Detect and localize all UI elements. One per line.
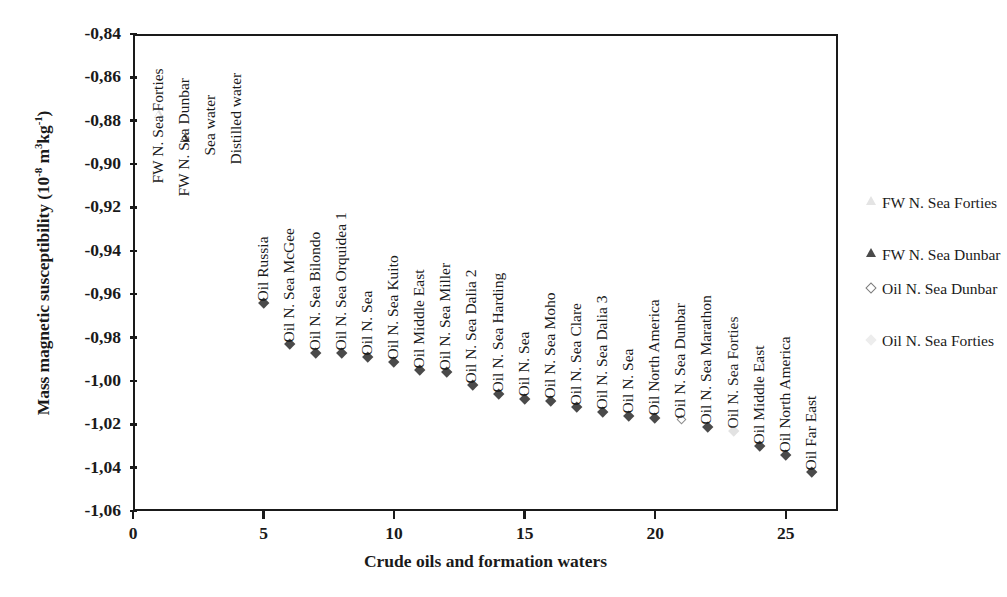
x-axis-tick-label: 0 <box>113 523 153 544</box>
data-point-label: Oil N. Sea Dalia 2 <box>463 269 479 383</box>
y-axis-tick-label: -0,92 <box>53 198 121 216</box>
data-point-label: Oil Far East <box>802 395 818 470</box>
data-point-label: Oil Russia <box>254 236 270 301</box>
x-axis-tick-label: 15 <box>505 523 545 544</box>
data-point-label: Oil N. Sea Harding <box>489 272 505 392</box>
legend-item[interactable]: FW N. Sea Dunbar <box>866 228 1001 264</box>
y-axis-tick-mark <box>130 423 137 426</box>
y-axis-tick-label: -0,88 <box>53 112 121 130</box>
x-axis-tick-mark <box>785 511 788 519</box>
legend-marker-icon <box>866 231 876 257</box>
y-axis-tick-mark <box>130 466 137 469</box>
y-axis-tick-label: -0,84 <box>53 25 121 43</box>
data-point-label: Distilled water <box>228 73 244 165</box>
y-axis-tick-mark <box>130 293 137 296</box>
data-point-label: Sea water <box>202 95 218 156</box>
legend-item-label: Oil N. Sea Dunbar <box>882 280 1001 298</box>
data-point-label: FW N. Sea Dunbar <box>176 78 192 197</box>
x-axis-tick-mark <box>523 511 526 519</box>
y-axis-tick-label: -1,06 <box>53 502 121 520</box>
y-axis-tick-label: -1,04 <box>53 459 121 477</box>
y-axis-title: Mass magnetic susceptibility (10-8 m3kg-… <box>32 53 54 473</box>
data-point-label: Oil North America <box>646 300 662 416</box>
data-point-label: Oil N. Sea <box>620 349 636 414</box>
y-axis-tick-label: -0,94 <box>53 242 121 260</box>
legend-marker-icon <box>865 282 876 293</box>
y-axis-tick-label: -1,00 <box>53 372 121 390</box>
x-axis-tick-mark <box>393 511 396 519</box>
chart-legend: FW N. Sea FortiesFW N. Sea DunbarOil N. … <box>866 176 1001 384</box>
x-axis-title: Crude oils and formation waters <box>133 551 838 572</box>
data-point-label: Oil N. Sea Forties <box>724 317 740 429</box>
data-point-label: Oil N. Sea Miller <box>437 263 453 371</box>
y-axis-tick-mark <box>130 119 137 122</box>
x-axis-tick-label: 10 <box>374 523 414 544</box>
y-axis-title-close: ) <box>33 111 53 117</box>
x-axis-tick-mark <box>132 511 135 519</box>
data-point-label: Oil N. Sea Orquidea 1 <box>332 213 348 351</box>
legend-item[interactable]: Oil N. Sea Dunbar <box>866 280 1001 316</box>
y-axis-tick-label: -0,90 <box>53 155 121 173</box>
y-axis-tick-mark <box>130 250 137 253</box>
x-axis-tick-label: 20 <box>635 523 675 544</box>
data-point-label: Oil N. Sea Dalia 3 <box>594 295 610 409</box>
data-point-label: Oil N. Sea <box>515 331 531 396</box>
y-axis-tick-mark <box>130 163 137 166</box>
legend-marker-icon <box>865 334 876 345</box>
x-axis-tick-label: 5 <box>244 523 284 544</box>
legend-item-label: Oil N. Sea Forties <box>882 332 1001 350</box>
data-point-label: Oil N. Sea Bilondo <box>306 232 322 351</box>
x-axis-tick-mark <box>262 511 265 519</box>
x-axis-tick-label: 25 <box>766 523 806 544</box>
data-point-label: Oil Middle East <box>411 269 427 368</box>
data-layer: FW N. Sea FortiesFW N. Sea DunbarSea wat… <box>0 0 1007 8</box>
data-point-label: Oil N. Sea Clare <box>567 303 583 405</box>
legend-item-label: FW N. Sea Forties <box>882 194 1001 212</box>
legend-item[interactable]: Oil N. Sea Forties <box>866 332 1001 368</box>
data-point-label: Oil N. Sea Dunbar <box>672 303 688 418</box>
y-axis-title-exp3: -1 <box>32 116 44 125</box>
data-point-label: Oil Middle East <box>750 345 766 444</box>
legend-item-label: FW N. Sea Dunbar <box>882 246 1001 264</box>
y-axis-title-exp2: 3 <box>32 144 44 149</box>
y-axis-tick-mark <box>130 206 137 209</box>
data-point-label: Oil N. Sea <box>359 290 375 355</box>
x-axis-tick-mark <box>654 511 657 519</box>
data-point-label: FW N. Sea Forties <box>150 69 166 184</box>
y-axis-tick-mark <box>130 76 137 79</box>
data-point-label: Oil N. Sea McGee <box>280 228 296 343</box>
data-point-label: Oil N. Sea Kuito <box>385 255 401 359</box>
data-point-label: Oil North America <box>776 337 792 453</box>
y-axis-title-unit: kg <box>33 125 53 143</box>
y-axis-title-main: Mass magnetic susceptibility (10 <box>33 177 53 415</box>
y-axis-title-exp1: -8 <box>32 168 44 177</box>
data-point-label: Oil N. Sea Moho <box>541 293 557 399</box>
y-axis-title-mid: m <box>33 149 53 168</box>
y-axis-tick-label: -0,86 <box>53 68 121 86</box>
data-point-label: Oil N. Sea Marathon <box>698 295 714 424</box>
y-axis-tick-label: -0,98 <box>53 329 121 347</box>
y-axis-tick-mark <box>130 380 137 383</box>
y-axis-tick-label: -0,96 <box>53 285 121 303</box>
y-axis-tick-mark <box>130 336 137 339</box>
y-axis-tick-label: -1,02 <box>53 415 121 433</box>
legend-marker-icon <box>866 179 876 205</box>
y-axis-tick-mark <box>130 33 137 36</box>
legend-item[interactable]: FW N. Sea Forties <box>866 176 1001 212</box>
